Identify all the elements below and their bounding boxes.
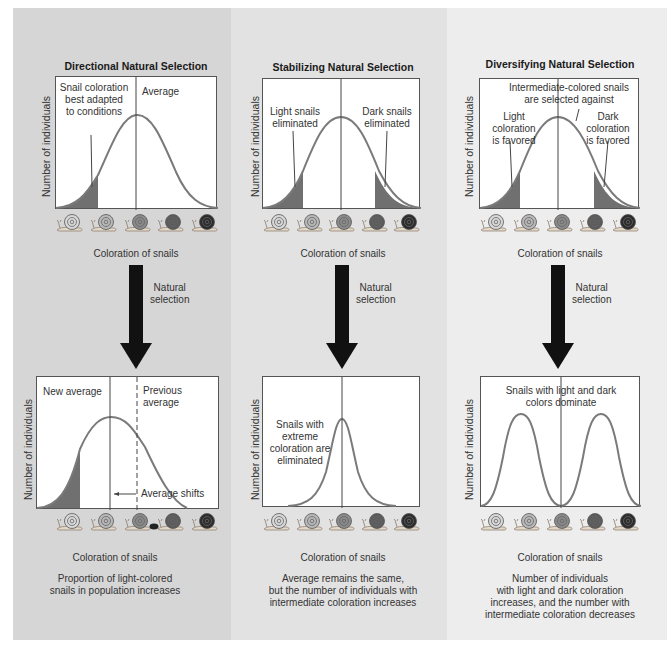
snail-icon bbox=[89, 212, 119, 232]
snail-row bbox=[55, 212, 220, 232]
annotation-average-shifts: Average shifts bbox=[141, 488, 204, 500]
annotation-new-average: New average bbox=[43, 386, 102, 398]
snail-icon bbox=[262, 511, 292, 531]
snail-icon bbox=[360, 511, 390, 531]
annotation-dark-eliminated: Dark snails eliminated bbox=[359, 106, 415, 130]
down-arrow-icon bbox=[120, 265, 152, 369]
chart-directional-after: New average Previous average Average shi… bbox=[36, 376, 219, 509]
x-axis-label: Coloration of snails bbox=[56, 248, 216, 259]
caption-diversifying: Number of individuals with light and dar… bbox=[460, 573, 660, 621]
snail-icon bbox=[479, 212, 509, 232]
y-axis-label: Number of individuals bbox=[249, 399, 261, 500]
snail-icon bbox=[123, 212, 153, 232]
natural-selection-label: Natural selection bbox=[150, 282, 189, 306]
annotation-intermediate-selected-against: Intermediate-colored snails are selected… bbox=[500, 82, 638, 106]
snail-icon bbox=[55, 212, 85, 232]
x-axis-label: Coloration of snails bbox=[480, 552, 640, 563]
x-axis-label: Coloration of snails bbox=[265, 552, 421, 563]
x-axis-label: Coloration of snails bbox=[265, 248, 421, 259]
annotation-average: Average bbox=[142, 86, 179, 98]
snail-icon bbox=[262, 212, 292, 232]
panel-title-diversifying: Diversifying Natural Selection bbox=[480, 58, 640, 70]
snail-icon bbox=[190, 212, 220, 232]
snail-icon bbox=[611, 212, 641, 232]
annotation-light-dark-dominate: Snails with light and dark colors domina… bbox=[491, 385, 631, 409]
chart-stabilizing-after: Snails with extreme coloration are elimi… bbox=[262, 376, 420, 507]
snail-icon bbox=[392, 511, 422, 531]
y-axis-label: Number of individuals bbox=[463, 399, 475, 500]
snail-icon bbox=[55, 511, 85, 531]
chart-diversifying-after: Snails with light and dark colors domina… bbox=[480, 376, 640, 507]
chart-directional-before: Snail coloration best adapted to conditi… bbox=[55, 76, 217, 209]
natural-selection-label: Natural selection bbox=[572, 282, 611, 306]
x-axis-label: Coloration of snails bbox=[50, 552, 180, 563]
y-axis-label: Number of individuals bbox=[463, 96, 475, 197]
bell-curve bbox=[263, 79, 421, 210]
snail-icon bbox=[295, 511, 325, 531]
y-axis-label: Number of individuals bbox=[40, 96, 52, 197]
snail-icon bbox=[512, 511, 542, 531]
annotation-previous-average: Previous average bbox=[143, 385, 182, 409]
snail-row bbox=[262, 511, 422, 531]
y-axis-label: Number of individuals bbox=[22, 399, 34, 500]
chart-diversifying-before: Intermediate-colored snails are selected… bbox=[479, 78, 639, 209]
snail-icon bbox=[578, 511, 608, 531]
annotation-dark-favored: Dark coloration is favored bbox=[580, 111, 636, 147]
x-axis-label: Coloration of snails bbox=[480, 248, 640, 259]
down-arrow-icon bbox=[326, 265, 358, 369]
snail-icon bbox=[89, 511, 119, 531]
annotation-light-eliminated: Light snails eliminated bbox=[267, 106, 323, 130]
chart-stabilizing-before: Light snails eliminated Dark snails elim… bbox=[262, 78, 420, 209]
snail-icon bbox=[512, 212, 542, 232]
snail-icon bbox=[545, 212, 575, 232]
snail-row bbox=[479, 212, 641, 232]
panel-title-stabilizing: Stabilizing Natural Selection bbox=[265, 61, 421, 73]
caption-stabilizing: Average remains the same, but the number… bbox=[245, 573, 441, 609]
snail-icon bbox=[360, 212, 390, 232]
snail-icon bbox=[327, 511, 357, 531]
natural-selection-label: Natural selection bbox=[356, 282, 395, 306]
caption-directional: Proportion of light-colored snails in po… bbox=[40, 573, 190, 597]
snail-icon bbox=[392, 212, 422, 232]
panel-title-directional: Directional Natural Selection bbox=[56, 60, 216, 72]
snail-icon bbox=[156, 511, 186, 531]
snail-icon bbox=[295, 212, 325, 232]
snail-icon bbox=[545, 511, 575, 531]
snail-icon bbox=[156, 212, 186, 232]
snail-row bbox=[479, 511, 641, 531]
snail-row bbox=[55, 511, 220, 531]
snail-icon bbox=[611, 511, 641, 531]
y-axis-label: Number of individuals bbox=[249, 96, 261, 197]
bird-icon bbox=[149, 523, 159, 530]
snail-row bbox=[262, 212, 422, 232]
snail-icon bbox=[327, 212, 357, 232]
snail-icon bbox=[479, 511, 509, 531]
down-arrow-icon bbox=[542, 265, 574, 369]
annotation-best-adapted: Snail coloration best adapted to conditi… bbox=[58, 82, 130, 118]
annotation-light-favored: Light coloration is favored bbox=[486, 111, 542, 147]
snail-icon bbox=[123, 511, 153, 531]
annotation-extreme-eliminated: Snails with extreme coloration are elimi… bbox=[265, 419, 335, 467]
snail-icon bbox=[578, 212, 608, 232]
snail-icon bbox=[190, 511, 220, 531]
